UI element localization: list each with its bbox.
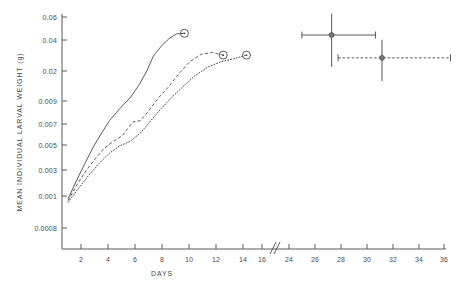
x-tick-label-13: 34 bbox=[415, 256, 423, 263]
y-tick-label-4: 0.007 bbox=[38, 121, 57, 128]
y-tick-label-6: 0.003 bbox=[38, 167, 57, 174]
x-tick-label-4: 10 bbox=[185, 256, 193, 263]
x-tick-label-6: 14 bbox=[239, 256, 247, 263]
y-tick-label-3: 0.009 bbox=[38, 98, 57, 105]
error-point-dashed bbox=[338, 40, 450, 82]
endpoint-marker-dashed bbox=[219, 51, 227, 59]
x-tick-label-2: 6 bbox=[133, 256, 137, 263]
series-group bbox=[68, 33, 246, 202]
y-tick-label-8: 0.0008 bbox=[34, 225, 57, 232]
y-tick-label-7: 0.001 bbox=[38, 193, 57, 200]
x-tick-label-9: 26 bbox=[311, 256, 319, 263]
axes-group bbox=[62, 14, 446, 249]
error-point-solid bbox=[302, 14, 376, 67]
endpoint-marker-dotted bbox=[242, 51, 250, 59]
x-tick-label-10: 28 bbox=[337, 256, 345, 263]
figure-container: 0.06 0.04 0.02 0.009 0.007 0.005 0.003 0… bbox=[0, 0, 458, 292]
y-tick-label-0: 0.06 bbox=[43, 14, 57, 21]
series-endpoint-markers-group bbox=[180, 29, 250, 59]
x-tick-label-8: 24 bbox=[285, 256, 293, 263]
y-tick-label-2: 0.02 bbox=[43, 68, 57, 75]
x-tick-label-11: 30 bbox=[363, 256, 371, 263]
data-point-marker bbox=[329, 33, 334, 38]
y-tick-labels-group: 0.06 0.04 0.02 0.009 0.007 0.005 0.003 0… bbox=[34, 14, 57, 232]
x-axis-title: DAYS bbox=[151, 270, 173, 277]
x-tick-label-12: 32 bbox=[389, 256, 397, 263]
x-tick-labels-group: 2 4 6 8 10 12 14 16 24 26 28 30 32 34 36 bbox=[79, 256, 448, 263]
y-ticks-group bbox=[62, 17, 67, 228]
chart-canvas: 0.06 0.04 0.02 0.009 0.007 0.005 0.003 0… bbox=[0, 0, 458, 292]
error-points-group bbox=[302, 14, 451, 82]
series-line-dotted bbox=[68, 55, 246, 202]
axis-break-icon bbox=[270, 242, 280, 254]
x-tick-label-5: 12 bbox=[212, 256, 220, 263]
x-tick-label-14: 36 bbox=[440, 256, 448, 263]
x-tick-label-3: 8 bbox=[160, 256, 164, 263]
x-ticks-group bbox=[81, 244, 444, 249]
y-tick-label-1: 0.04 bbox=[43, 37, 57, 44]
data-point-marker bbox=[380, 55, 385, 60]
x-tick-label-1: 4 bbox=[106, 256, 110, 263]
y-tick-label-5: 0.005 bbox=[38, 142, 57, 149]
y-axis-title: MEAN INDIVIDUAL LARVAL WEIGHT (g) bbox=[16, 52, 24, 211]
series-line-solid bbox=[68, 33, 184, 199]
x-tick-label-0: 2 bbox=[79, 256, 83, 263]
x-tick-label-7: 16 bbox=[258, 256, 266, 263]
